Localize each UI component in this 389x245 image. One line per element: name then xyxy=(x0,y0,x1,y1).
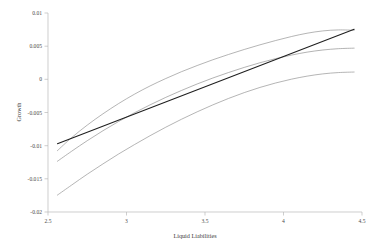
x-tick-label: 4 xyxy=(282,218,285,224)
data-series-group xyxy=(57,29,354,195)
x-tick-label: 3.5 xyxy=(202,218,209,224)
y-tick-labels: 0.01 0.005 0 -0.005 -0.01 -0.015 -0.02 xyxy=(28,10,43,215)
y-tick-label: 0.01 xyxy=(32,10,42,16)
y-tick-label: -0.005 xyxy=(28,110,43,116)
series-fitted-curve xyxy=(57,48,354,161)
y-tick-label: 0.005 xyxy=(29,43,42,49)
series-upper-confidence-band xyxy=(57,30,354,151)
x-tick-label: 4.5 xyxy=(359,218,366,224)
x-tick-label: 2.5 xyxy=(45,218,52,224)
y-tick-label: 0 xyxy=(39,76,42,82)
series-lower-confidence-band xyxy=(57,72,354,195)
y-axis-title: Growth xyxy=(15,102,22,122)
y-tick-label: -0.02 xyxy=(30,209,42,215)
x-tick-marks xyxy=(48,212,362,216)
y-tick-label: -0.015 xyxy=(28,176,43,182)
x-axis-title: Liquid Liabilities xyxy=(173,232,217,239)
series-linear-fit xyxy=(57,29,354,143)
chart-figure: 0.01 0.005 0 -0.005 -0.01 -0.015 -0.02 2… xyxy=(0,0,389,245)
y-tick-marks xyxy=(45,13,49,212)
x-tick-labels: 2.5 3 3.5 4 4.5 xyxy=(45,218,366,224)
y-tick-label: -0.01 xyxy=(30,143,42,149)
x-tick-label: 3 xyxy=(125,218,128,224)
chart-canvas: 0.01 0.005 0 -0.005 -0.01 -0.015 -0.02 2… xyxy=(0,0,389,245)
